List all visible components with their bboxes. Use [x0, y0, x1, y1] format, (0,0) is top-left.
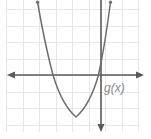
- y-axis-arrow-bottom: [98, 124, 105, 132]
- grid-lines: [6, 0, 140, 132]
- graph-figure: g(x): [0, 0, 151, 139]
- x-axis: [7, 72, 144, 79]
- curve-endpoint-right: [109, 1, 112, 4]
- function-label: g(x): [104, 81, 125, 95]
- curve-endpoint-left: [36, 1, 39, 4]
- x-axis-arrow-left: [7, 72, 15, 79]
- coordinate-plane: g(x): [0, 0, 151, 139]
- x-axis-arrow-right: [136, 72, 144, 79]
